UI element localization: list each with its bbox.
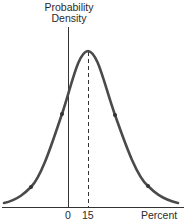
x-tick-0: 0	[65, 209, 71, 221]
x-tick-15: 15	[82, 209, 94, 221]
probability-density-chart: Probability Density 0 15 Percent	[0, 0, 186, 222]
inflection-point-left	[60, 112, 64, 116]
x-axis-label: Percent	[141, 209, 177, 221]
inflection-point-right	[113, 113, 117, 117]
tail-point-left	[29, 185, 33, 189]
chart-plot-area	[0, 0, 186, 222]
tail-point-right	[146, 184, 150, 188]
bell-curve	[4, 51, 178, 203]
y-axis-label-line2: Density	[38, 13, 100, 24]
y-axis-label: Probability Density	[38, 2, 100, 24]
